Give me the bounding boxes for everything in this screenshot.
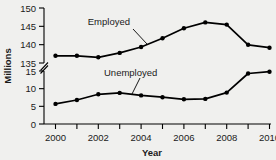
- x-tick-label-2002: 2002: [88, 132, 109, 143]
- line-chart: 150 145 140 135 15 10 5 0: [0, 0, 276, 160]
- x-tick-label-2006: 2006: [173, 132, 194, 143]
- unemployed-series-label: Unemployed: [104, 67, 157, 78]
- y-tick-label-145: 145: [20, 21, 36, 32]
- y-tick-label-150: 150: [20, 3, 36, 14]
- y-tick-label-140: 140: [20, 39, 36, 50]
- x-axis-title: Year: [142, 147, 162, 158]
- chart-container: 150 145 140 135 15 10 5 0: [0, 0, 276, 160]
- employed-series-label: Employed: [88, 16, 130, 27]
- y-tick-label-5: 5: [31, 101, 36, 112]
- y-tick-label-0: 0: [31, 119, 36, 130]
- x-tick-label-2004: 2004: [131, 132, 152, 143]
- y-axis-title: Millions: [2, 48, 13, 83]
- y-tick-label-15: 15: [25, 66, 36, 77]
- x-tick-label-2000: 2000: [45, 132, 66, 143]
- x-tick-label-2008: 2008: [216, 132, 237, 143]
- y-tick-label-10: 10: [25, 83, 36, 94]
- x-tick-label-2010: 2010: [259, 132, 276, 143]
